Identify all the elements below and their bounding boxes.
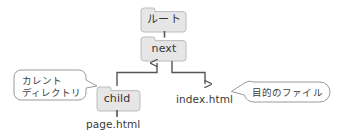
connector-next-to-index	[172, 61, 205, 84]
directory-tree-diagram: ルート next child index.html page.html カレント…	[0, 0, 340, 140]
callout-text-target-file: 目的のファイル	[252, 87, 322, 99]
folder-label-root: ルート	[145, 14, 183, 25]
file-label-index-html: index.html	[176, 94, 233, 105]
folder-label-child: child	[99, 93, 135, 104]
callout-line-current-directory-2: ディレクトリ	[22, 87, 82, 99]
folder-label-next: next	[145, 43, 183, 54]
callout-text-current-directory: カレント ディレクトリ	[22, 75, 82, 99]
file-label-page-html: page.html	[86, 119, 140, 130]
callout-line-current-directory-1: カレント	[22, 75, 82, 87]
connector-child-to-next	[117, 63, 157, 86]
